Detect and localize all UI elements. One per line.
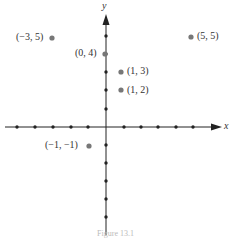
point-label-1-3: (1, 3): [127, 66, 149, 76]
point-1-2: [118, 87, 123, 92]
point-neg1-neg1: [86, 143, 91, 148]
point-neg3-5: [49, 35, 54, 40]
data-points: [49, 34, 193, 148]
point-0-4: [102, 51, 107, 56]
y-axis-arrow-icon: [103, 14, 110, 25]
point-1-3: [118, 69, 123, 74]
point-5-5: [188, 34, 193, 39]
point-label-5-5: (5, 5): [197, 31, 219, 41]
point-label-neg1-neg1: (−1, −1): [45, 140, 78, 150]
x-axis-arrow-icon: [211, 124, 222, 131]
x-axis-label: x: [224, 121, 228, 131]
figure-caption: Figure 13.1: [0, 229, 231, 238]
point-label-1-2: (1, 2): [127, 85, 149, 95]
point-label-0-4: (0, 4): [75, 48, 97, 58]
y-axis-label: y: [102, 1, 106, 11]
point-label-neg3-5: (−3, 5): [16, 32, 43, 42]
